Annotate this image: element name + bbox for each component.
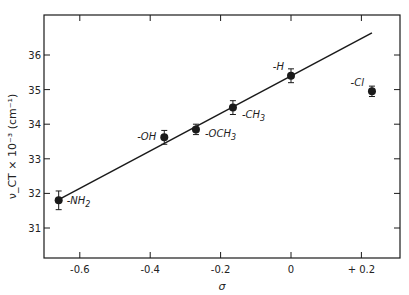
- regression-line: [59, 33, 372, 200]
- scatter-plot: -0.6-0.4-0.20+ 0.2 313233343536 -NH2-OH-…: [0, 0, 409, 295]
- x-tick-label: -0.6: [70, 264, 90, 275]
- point-label: -CH3: [242, 109, 265, 123]
- x-axis-ticks: -0.6-0.4-0.20+ 0.2: [70, 15, 375, 275]
- x-tick-label: 0: [288, 264, 294, 275]
- point-marker: [368, 87, 376, 95]
- x-tick-label: -0.4: [140, 264, 160, 275]
- y-tick-label: 32: [28, 188, 41, 199]
- data-points: -NH2-OH-OCH3-CH3-H-Cl: [55, 61, 376, 210]
- chart-container: -0.6-0.4-0.20+ 0.2 313233343536 -NH2-OH-…: [0, 0, 409, 295]
- y-tick-label: 34: [28, 119, 41, 130]
- y-axis-label: ν_CT × 10⁻³ (cm⁻¹): [6, 94, 19, 200]
- data-point: -OH: [137, 130, 168, 144]
- point-label: -OCH3: [205, 128, 236, 142]
- data-point: -CH3: [229, 101, 265, 123]
- point-label: -OH: [137, 131, 156, 142]
- point-marker: [287, 72, 295, 80]
- point-marker: [229, 104, 237, 112]
- x-tick-label: -0.2: [211, 264, 231, 275]
- fit-line: [59, 33, 372, 200]
- point-label: -NH2: [67, 195, 91, 209]
- data-point: -Cl: [351, 77, 376, 96]
- point-marker: [160, 133, 168, 141]
- y-tick-label: 31: [28, 223, 41, 234]
- y-tick-label: 33: [28, 154, 41, 165]
- point-marker: [192, 125, 200, 133]
- data-point: -OCH3: [192, 124, 236, 142]
- y-tick-label: 36: [28, 50, 41, 61]
- point-label: -H: [273, 61, 285, 72]
- x-tick-label: + 0.2: [348, 264, 375, 275]
- y-tick-label: 35: [28, 85, 41, 96]
- y-axis-ticks: 313233343536: [28, 50, 400, 234]
- point-label: -Cl: [351, 77, 365, 88]
- point-marker: [55, 196, 63, 204]
- data-point: -NH2: [55, 191, 91, 210]
- x-axis-label: σ: [219, 280, 227, 293]
